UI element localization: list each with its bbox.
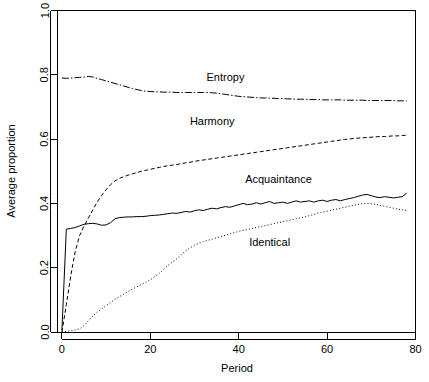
x-tick-label: 80 — [409, 343, 421, 355]
chart-figure: 0.00.20.40.60.81.0 020406080 EntropyHarm… — [0, 0, 429, 382]
y-tick-label: 0.8 — [39, 67, 51, 82]
series-label-acquaintance: Acquaintance — [245, 173, 312, 185]
x-tick-label: 0 — [59, 343, 65, 355]
y-tick-label: 0.6 — [39, 131, 51, 146]
y-axis-title: Average proportion — [5, 124, 17, 217]
y-tick-label: 0.4 — [39, 196, 51, 211]
series-label-harmony: Harmony — [190, 115, 235, 127]
y-tick-label: 0.2 — [39, 260, 51, 275]
x-tick-label: 20 — [144, 343, 156, 355]
x-tick-label: 60 — [321, 343, 333, 355]
y-tick-label: 0.0 — [39, 324, 51, 339]
x-tick-label: 40 — [233, 343, 245, 355]
chart-background — [0, 0, 429, 382]
x-axis-title: Period — [221, 362, 253, 374]
series-label-identical: Identical — [249, 236, 290, 248]
line-chart: 0.00.20.40.60.81.0 020406080 EntropyHarm… — [0, 0, 429, 382]
series-label-entropy: Entropy — [206, 71, 244, 83]
y-tick-label: 1.0 — [39, 3, 51, 18]
